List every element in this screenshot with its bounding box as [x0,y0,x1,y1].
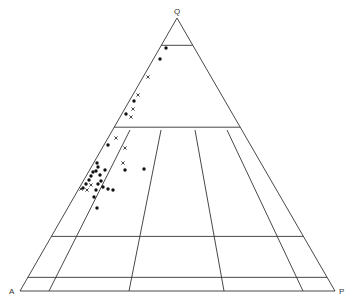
point-dot [106,187,109,190]
dividing-line-3 [195,130,224,291]
dividing-line-2 [129,130,161,291]
point-cross [89,183,92,186]
point-dot [96,165,99,168]
point-dot [158,57,161,60]
triangle-outline [20,18,335,291]
point-dot [132,99,135,102]
point-dot [98,173,101,176]
point-cross [136,93,139,96]
point-cross [85,188,88,191]
point-dot [89,174,92,177]
point-dot [94,188,97,191]
point-cross [123,146,126,149]
point-dot [91,170,94,173]
vertex-label-q: Q [174,7,180,16]
data-points [79,46,167,209]
point-dot [106,143,109,146]
point-dot [111,188,114,191]
point-dot [87,178,90,181]
point-cross [131,107,134,110]
vertex-label-p: P [339,287,344,296]
point-cross [146,75,149,78]
triangle-frame [20,18,335,291]
point-dot [101,185,104,188]
point-dot [99,179,102,182]
point-dot [84,182,87,185]
point-cross [121,161,124,164]
point-cross [114,136,117,139]
dividing-line-1 [49,130,130,291]
field-dividing-lines [49,130,303,291]
qap-ternary-diagram: Q A P [0,0,353,306]
dividing-line-4 [227,130,303,291]
point-dot [142,167,145,170]
point-dot [124,112,127,115]
point-dot [94,169,97,172]
vertex-label-a: A [9,287,15,296]
point-dot [103,168,106,171]
point-dot [123,168,126,171]
q-percent-lines [28,45,327,277]
point-dot [164,46,167,49]
point-cross [129,115,132,118]
point-dot [96,182,99,185]
point-dot [95,206,98,209]
point-dot [95,161,98,164]
point-dot [92,195,95,198]
